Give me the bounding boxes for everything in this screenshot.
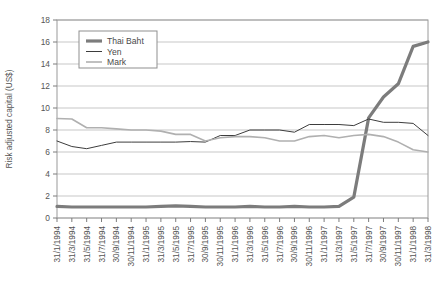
y-tick-label: 6	[45, 147, 50, 157]
x-tick-label: 31/5/1997	[350, 226, 359, 263]
y-tick-label: 14	[41, 59, 51, 69]
x-tick-label: 31/1/1998	[409, 226, 418, 263]
x-tick-label: 30/11/1996	[305, 226, 314, 267]
y-tick-label: 10	[41, 103, 51, 113]
x-tick-label: 31/1/1995	[142, 226, 151, 263]
y-tick-label: 12	[41, 81, 51, 91]
x-tick-label: 31/1/1994	[53, 226, 62, 263]
legend-label-thai-baht: Thai Baht	[107, 36, 144, 46]
x-tick-label: 30/11/1997	[394, 226, 403, 267]
x-tick-label: 31/1/1997	[320, 226, 329, 263]
y-tick-label: 4	[45, 169, 50, 179]
chart-legend: Thai BahtYenMark	[79, 31, 157, 68]
x-tick-label: 30/11/1995	[216, 226, 225, 267]
x-tick-label: 31/1/1996	[231, 226, 240, 263]
y-axis-title: Risk adjusted capital (US$)	[5, 69, 14, 168]
x-tick-label: 30/9/1997	[379, 226, 388, 263]
y-tick-label: 0	[45, 213, 50, 223]
x-tick-label: 30/11/1994	[127, 226, 136, 267]
y-axis-title-text: Risk adjusted capital (US$)	[5, 69, 14, 168]
y-tick-label: 16	[41, 37, 51, 47]
x-tick-label: 31/7/1994	[98, 226, 107, 263]
x-tick-label: 31/5/1995	[172, 226, 181, 263]
x-tick-label: 30/9/1994	[112, 226, 121, 263]
x-tick-label: 31/7/1995	[187, 226, 196, 263]
x-tick-label: 31/3/1996	[246, 226, 255, 263]
x-tick-label: 30/9/1995	[201, 226, 210, 263]
x-tick-label: 31/3/1995	[157, 226, 166, 263]
legend-label-yen: Yen	[107, 47, 122, 57]
x-tick-label: 31/3/1997	[335, 226, 344, 263]
x-tick-label: 31/5/1996	[261, 226, 270, 263]
risk-adjusted-capital-line-chart: Risk adjusted capital (US$) 024681012141…	[0, 0, 437, 288]
y-tick-label: 8	[45, 125, 50, 135]
x-tick-label: 31/5/1994	[83, 226, 92, 263]
x-tick-label: 31/7/1996	[276, 226, 285, 263]
x-tick-label: 31/3/1994	[68, 226, 77, 263]
y-tick-label: 2	[45, 191, 50, 201]
x-tick-label: 31/3/1998	[424, 226, 433, 263]
legend-label-mark: Mark	[107, 57, 127, 67]
chart-container: Risk adjusted capital (US$) 024681012141…	[0, 0, 437, 288]
y-tick-label: 18	[41, 15, 51, 25]
x-tick-label: 31/7/1997	[365, 226, 374, 263]
x-tick-label: 30/9/1996	[290, 226, 299, 263]
